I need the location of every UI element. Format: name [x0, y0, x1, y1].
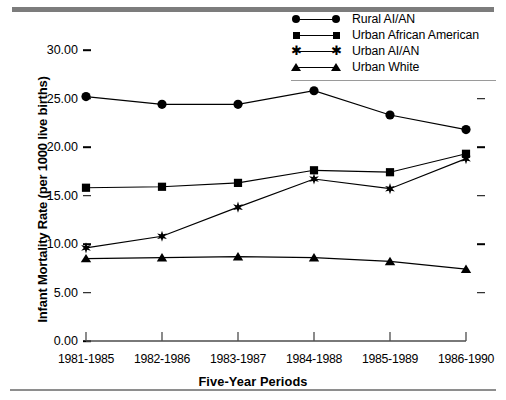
x-axis-line: [86, 332, 466, 341]
x-axis-title: Five-Year Periods: [0, 374, 506, 389]
plot-area: [0, 0, 506, 400]
bottom-rule: [10, 389, 496, 391]
series-urban-ai-an: [81, 153, 471, 253]
circle-marker-icon: [309, 86, 318, 95]
x-axis-tick-label: 1986-1990: [438, 352, 494, 366]
square-marker-icon: [158, 183, 166, 191]
circle-marker-icon: [385, 110, 394, 119]
series-urban-white: [81, 252, 471, 273]
square-marker-icon: [82, 184, 90, 192]
x-axis-tick-label: 1981-1985: [58, 352, 114, 366]
series-line: [86, 257, 466, 270]
series-line: [86, 91, 466, 130]
chart-figure: Rural AI/AN Urban African American ✱ ✱ U…: [0, 0, 506, 400]
square-marker-icon: [386, 168, 394, 176]
circle-marker-icon: [233, 100, 242, 109]
series-line: [86, 159, 466, 248]
square-marker-icon: [310, 166, 318, 174]
series-rural-ai-an: [81, 86, 470, 134]
circle-marker-icon: [461, 125, 470, 134]
series-line: [86, 154, 466, 188]
x-axis-tick-label: 1985-1989: [362, 352, 418, 366]
square-marker-icon: [234, 179, 242, 187]
x-axis-tick-label: 1984-1988: [286, 352, 342, 366]
x-axis-tick-label: 1982-1986: [134, 352, 190, 366]
x-axis-tick-label: 1983-1987: [210, 352, 266, 366]
circle-marker-icon: [157, 100, 166, 109]
star-marker-icon: [233, 202, 243, 213]
series-urban-african-american: [82, 150, 470, 192]
circle-marker-icon: [81, 92, 90, 101]
